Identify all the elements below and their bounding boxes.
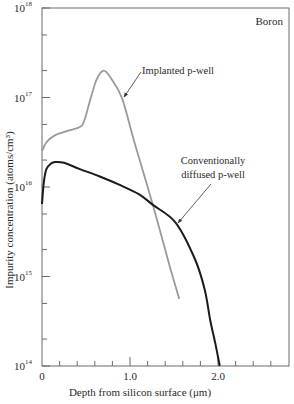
y-tick-label: 10 [14, 2, 26, 14]
y-tick-label: 10 [14, 181, 26, 193]
x-tick-label: 2.0 [211, 370, 225, 382]
y-tick-label: 10 [14, 360, 26, 372]
y-tick-exponent: 17 [25, 90, 33, 98]
y-axis-label: Impurity concentration (atoms/cm³) [3, 131, 16, 289]
plot-frame [42, 8, 289, 366]
diffused-label-line1: Conventionally [181, 155, 246, 166]
y-tick-label: 10 [14, 271, 26, 283]
implanted-label: Implanted p-well [142, 65, 214, 76]
implanted-arrow [124, 72, 141, 97]
diffused-label-line2: diffused p-well [181, 169, 245, 180]
x-tick-label: 0 [39, 370, 45, 382]
boron-label: Boron [256, 15, 284, 27]
labels: Boron Depth from silicon surface (μm) Im… [3, 15, 284, 399]
y-tick-exponent: 15 [25, 269, 33, 277]
x-tick-label: 1.0 [123, 370, 137, 382]
series-group [42, 71, 220, 366]
y-tick-exponent: 18 [25, 0, 33, 8]
y-tick-exponent: 16 [25, 179, 33, 187]
diffused-curve [42, 162, 220, 366]
implanted-curve [42, 71, 179, 299]
y-tick-label: 10 [14, 92, 26, 104]
diffused-arrow [178, 184, 211, 223]
x-axis-label: Depth from silicon surface (μm) [69, 386, 211, 399]
y-tick-exponent: 14 [25, 358, 33, 366]
axes: 01.02.010141015101610171018 [14, 0, 289, 382]
chart-svg: 01.02.010141015101610171018 Boron Depth … [0, 0, 294, 404]
